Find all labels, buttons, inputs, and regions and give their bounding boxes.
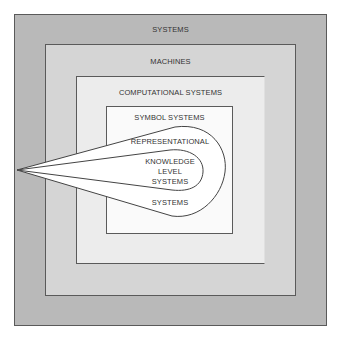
representational-label: REPRESENTATIONAL: [120, 137, 220, 146]
systems-inner-label: SYSTEMS: [140, 177, 200, 186]
computational-systems-label: COMPUTATIONAL SYSTEMS: [76, 88, 265, 97]
machines-label: MACHINES: [45, 57, 296, 66]
symbol-systems-label: SYMBOL SYSTEMS: [106, 113, 233, 122]
systems-outer-bottom-label: SYSTEMS: [140, 198, 200, 207]
systems-label: SYSTEMS: [14, 25, 327, 34]
knowledge-label: KNOWLEDGE: [140, 157, 200, 166]
level-label: LEVEL: [140, 167, 200, 176]
